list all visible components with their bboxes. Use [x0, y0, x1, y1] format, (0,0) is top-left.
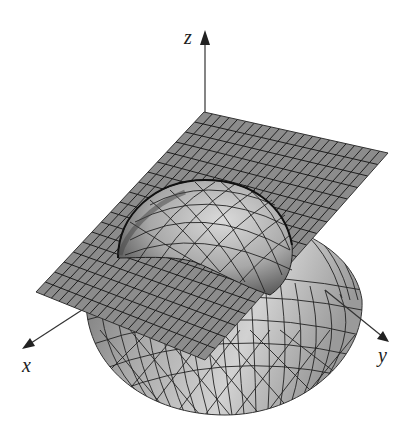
x-axis	[22, 310, 82, 349]
plane-hemisphere-figure: z	[0, 0, 416, 433]
x-axis-label: x	[21, 354, 31, 376]
y-axis-label: y	[376, 344, 387, 367]
z-axis-label: z	[183, 26, 192, 48]
